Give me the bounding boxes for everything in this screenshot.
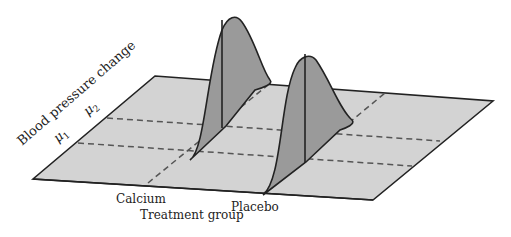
base-plane (33, 76, 493, 200)
mu1-label: μ1 (50, 125, 72, 147)
diagram-canvas: Blood pressure change μ2 μ1 Calcium Plac… (0, 0, 511, 237)
mu2-label: μ2 (80, 98, 102, 120)
calcium-label: Calcium (116, 192, 166, 206)
x-axis-label: Treatment group (140, 208, 244, 222)
